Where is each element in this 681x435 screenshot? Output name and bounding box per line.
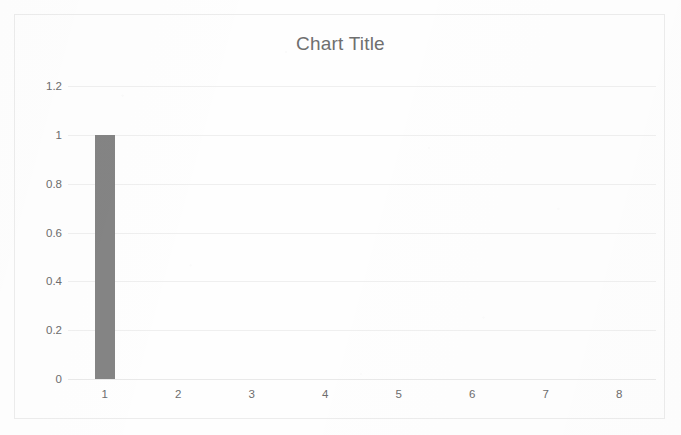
x-tick-label: 5 bbox=[379, 388, 419, 400]
x-tick-label: 7 bbox=[526, 388, 566, 400]
chart-container[interactable]: Chart Title 00.20.40.60.811.2 12345678 bbox=[14, 14, 665, 419]
x-tick-label: 3 bbox=[232, 388, 272, 400]
y-tick-label: 1.2 bbox=[18, 80, 62, 92]
x-tick-label: 6 bbox=[452, 388, 492, 400]
y-axis[interactable]: 00.20.40.60.811.2 bbox=[18, 86, 62, 379]
y-tick-label: 0.6 bbox=[18, 227, 62, 239]
bar-series bbox=[68, 86, 656, 379]
x-tick-label: 4 bbox=[305, 388, 345, 400]
y-tick-label: 0.2 bbox=[18, 324, 62, 336]
y-tick-label: 0.8 bbox=[18, 178, 62, 190]
y-tick-label: 1 bbox=[18, 129, 62, 141]
plot-area[interactable] bbox=[68, 86, 656, 379]
x-tick-label: 2 bbox=[158, 388, 198, 400]
bar[interactable] bbox=[95, 135, 115, 379]
y-tick-label: 0 bbox=[18, 373, 62, 385]
chart-screenshot: Chart Title 00.20.40.60.811.2 12345678 bbox=[0, 0, 681, 435]
x-tick-label: 1 bbox=[85, 388, 125, 400]
chart-title[interactable]: Chart Title bbox=[15, 33, 666, 55]
x-axis[interactable]: 12345678 bbox=[68, 379, 656, 407]
y-tick-label: 0.4 bbox=[18, 275, 62, 287]
x-tick-label: 8 bbox=[599, 388, 639, 400]
